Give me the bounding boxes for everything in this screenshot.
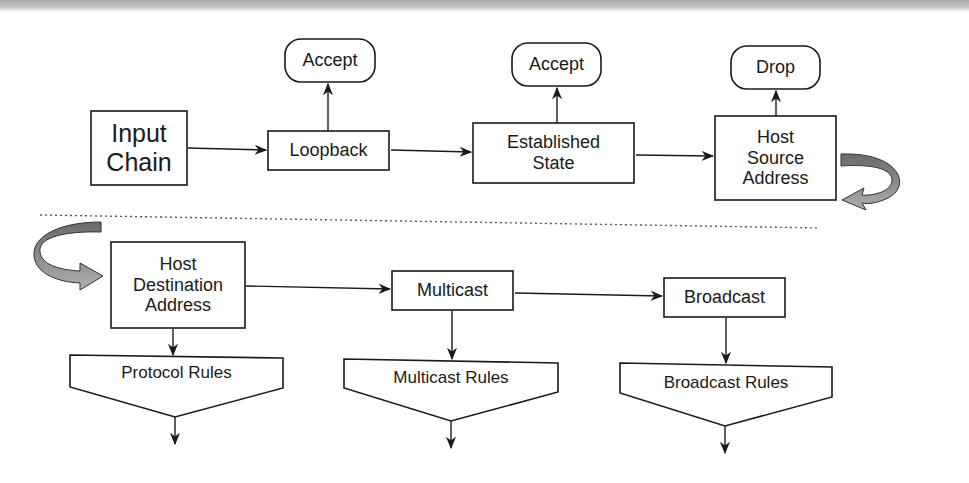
established-state-label: Established State — [473, 123, 634, 183]
broadcast-rules-label: Broadcast Rules — [620, 368, 832, 398]
accept-label-2: Accept — [512, 43, 601, 86]
loopback-label: Loopback — [268, 131, 389, 170]
arrow-input-to-loopback — [188, 148, 266, 150]
broadcast-label: Broadcast — [664, 278, 785, 317]
section-divider — [40, 215, 820, 228]
multicast-rules-label: Multicast Rules — [344, 363, 558, 393]
protocol-rules-label: Protocol Rules — [70, 358, 283, 388]
drop-label: Drop — [731, 46, 820, 89]
arrow-host-dest-to-multicast — [246, 286, 390, 289]
host-source-address-label: Host Source Address — [715, 116, 836, 200]
input-chain-label: Input Chain — [91, 111, 187, 185]
accept-label-1: Accept — [285, 39, 375, 82]
continuation-arrow-out-icon — [841, 154, 900, 210]
multicast-label: Multicast — [392, 271, 513, 310]
arrow-loopback-to-established — [391, 150, 471, 152]
continuation-arrow-in-icon — [34, 222, 103, 290]
arrow-established-to-host-source — [636, 155, 713, 156]
arrow-multicast-to-broadcast — [515, 293, 662, 296]
host-destination-address-label: Host Destination Address — [111, 242, 245, 328]
